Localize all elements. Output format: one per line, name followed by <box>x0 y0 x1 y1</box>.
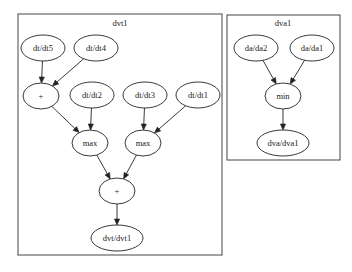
node-dt5: dt/dt5 <box>21 35 65 61</box>
edge-da2-to-min <box>263 60 276 84</box>
edge-plus1-to-max1 <box>52 106 79 132</box>
node-max1: max <box>72 130 108 156</box>
arrowhead-icon <box>39 77 44 83</box>
edge-min-to-dva_out <box>280 109 285 130</box>
edge-max2-to-plus2 <box>124 155 137 179</box>
node-label: da/da1 <box>301 43 324 53</box>
node-label: dvt/dvt1 <box>103 233 131 243</box>
node-dva_out: dva/dva1 <box>257 130 309 156</box>
nodes-layer: dt/dt5dt/dt4+dt/dt2dt/dt3dt/dt1maxmax+dv… <box>21 35 334 251</box>
edge-max1-to-plus2 <box>97 155 110 179</box>
arrowhead-icon <box>141 124 146 130</box>
edge-dt1-to-max2 <box>154 106 185 133</box>
node-dvt_out: dvt/dvt1 <box>91 225 143 251</box>
node-label: max <box>136 138 151 148</box>
node-da2: da/da2 <box>234 35 278 61</box>
edge-dt4-to-plus1 <box>52 59 83 86</box>
arrowhead-icon <box>114 219 119 225</box>
cluster-label: dva1 <box>275 18 292 28</box>
edge-dt5-to-plus1 <box>39 61 44 83</box>
node-dt1: dt/dt1 <box>176 82 220 108</box>
node-dt3: dt/dt3 <box>123 82 167 108</box>
edge-dt2-to-max1 <box>88 108 93 130</box>
edge-da1-to-min <box>290 60 304 84</box>
node-da1: da/da1 <box>290 35 334 61</box>
node-label: + <box>115 186 120 196</box>
node-plus2: + <box>99 178 135 204</box>
arrowhead-icon <box>271 77 276 84</box>
node-dt2: dt/dt2 <box>70 82 114 108</box>
node-label: dt/dt1 <box>188 90 208 100</box>
node-label: min <box>276 91 290 101</box>
node-label: dt/dt4 <box>86 43 107 53</box>
edge-plus2-to-dvt_out <box>114 204 119 225</box>
arrowhead-icon <box>105 172 110 179</box>
node-dt4: dt/dt4 <box>74 35 118 61</box>
dataflow-graph: dvt1dva1 dt/dt5dt/dt4+dt/dt2dt/dt3dt/dt1… <box>0 0 352 272</box>
arrowhead-icon <box>280 124 285 130</box>
node-min: min <box>265 83 301 109</box>
node-label: da/da2 <box>245 43 268 53</box>
node-label: + <box>39 91 44 101</box>
node-label: dt/dt5 <box>33 43 53 53</box>
arrowhead-icon <box>290 78 295 84</box>
node-max2: max <box>125 130 161 156</box>
arrowhead-icon <box>88 124 93 130</box>
node-label: dt/dt3 <box>135 90 155 100</box>
arrowhead-icon <box>124 172 129 179</box>
node-label: max <box>83 138 98 148</box>
edge-dt3-to-max2 <box>141 108 146 130</box>
node-plus1: + <box>23 83 59 109</box>
node-label: dt/dt2 <box>82 90 102 100</box>
node-label: dva/dva1 <box>267 138 298 148</box>
cluster-label: dvt1 <box>112 18 127 28</box>
